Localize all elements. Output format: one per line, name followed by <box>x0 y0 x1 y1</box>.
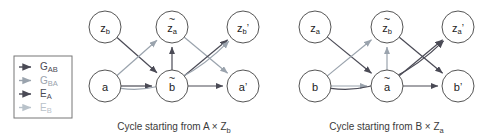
edge-zb-tilde-to-b-prime <box>399 37 442 73</box>
diagram-canvas: zb~zazb’a~ba’za~zbza’b~ab’Cycle starting… <box>0 0 490 138</box>
edge-zb-to-b-tilde <box>117 38 157 73</box>
edge-b-to-zb-tilde <box>327 40 371 76</box>
caption-left: Cycle starting from A × Zb <box>117 121 230 135</box>
node-a-label: a <box>102 80 109 92</box>
legend: GABGBAEAEB <box>14 56 72 118</box>
node-b-tilde-label: b <box>169 80 175 92</box>
node-b-label: b <box>312 80 318 92</box>
node-b[interactable]: b <box>299 70 331 102</box>
node-a-prime[interactable]: a’ <box>227 70 259 102</box>
edge-a-to-za-tilde <box>117 40 157 75</box>
node-a-tilde[interactable]: ~a <box>371 70 403 102</box>
node-b-prime[interactable]: b’ <box>442 70 474 102</box>
node-zb-prime[interactable]: zb’ <box>227 11 259 43</box>
node-zb-tilde[interactable]: ~zb <box>371 11 403 43</box>
node-a-tilde-label: a <box>384 80 391 92</box>
node-za-prime[interactable]: za’ <box>442 11 474 43</box>
edge-za-tilde-to-a-prime <box>184 37 227 73</box>
node-zb[interactable]: zb <box>89 11 121 43</box>
edge-b-tilde-to-zb-prime <box>184 40 227 76</box>
diagram-root: zb~zazb’a~ba’za~zbza’b~ab’Cycle starting… <box>0 0 490 138</box>
edge-za-to-a-tilde <box>327 37 371 73</box>
node-a-prime-label: a’ <box>239 80 247 92</box>
node-a[interactable]: a <box>89 70 121 102</box>
node-b-tilde[interactable]: ~b <box>156 70 188 102</box>
node-za[interactable]: za <box>299 11 331 43</box>
node-za-tilde[interactable]: ~za <box>156 11 188 43</box>
caption-right: Cycle starting from B × Za <box>329 121 444 135</box>
node-b-prime-label: b’ <box>454 80 462 92</box>
